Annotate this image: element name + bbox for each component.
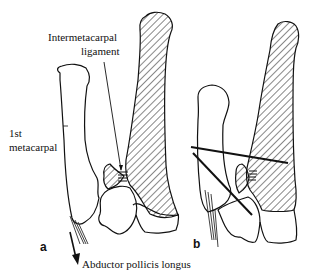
panel-letter-a: a (40, 240, 47, 254)
ligament-pointer-line (104, 62, 121, 170)
second-metacarpal-b (246, 22, 298, 212)
abductor-tendon-b (205, 190, 218, 247)
anatomy-diagram (0, 0, 310, 276)
muscle-label: Abductor pollicis longus (82, 258, 191, 271)
metacarpal-label-line2: metacarpal (9, 141, 57, 154)
abductor-arrowhead (72, 253, 80, 265)
ligament-label-line1: Intermetacarpal (48, 31, 117, 44)
carpal-bone-1-a (99, 186, 137, 234)
ligament-label-line2: ligament (81, 45, 120, 58)
panel-b (191, 22, 299, 247)
panel-letter-b: b (193, 237, 200, 251)
abductor-arrow-shaft (70, 232, 76, 258)
ligament-arrowhead (119, 165, 123, 171)
carpal-bone-2-b (260, 210, 297, 243)
first-metacarpal-a (58, 64, 99, 224)
metacarpal-label-line1: 1st (9, 127, 22, 140)
second-metacarpal-a (126, 12, 178, 217)
abductor-tendon-a (70, 216, 88, 244)
